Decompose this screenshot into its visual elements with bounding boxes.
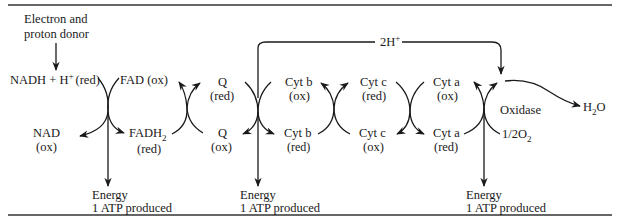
fadh2-to-fad-arrow (172, 82, 187, 134)
cytc-red-state: (red) (362, 89, 386, 103)
nad-state: (ox) (36, 140, 57, 154)
energy-2-line2: 1 ATP produced (240, 201, 321, 215)
cytc-red-to-cytc-ox-arrow (396, 82, 410, 134)
energy-3-line1: Energy (466, 188, 503, 202)
cytb-red-to-cytb-ox-arrow (318, 83, 334, 134)
q-ox-to-q-red-arrow (187, 83, 203, 133)
fadh2-label: FADH2 (129, 126, 167, 143)
q-ox-label: Q (218, 126, 227, 140)
oxygen-arrow (484, 83, 500, 134)
cytc-red-label: Cyt c (360, 75, 387, 89)
cyta-red-state: (red) (434, 140, 458, 154)
cyta-ox-to-cyta-red-arrow (410, 82, 424, 134)
cytb-red-state: (red) (287, 140, 310, 154)
q-ox-state: (ox) (211, 140, 232, 154)
cyta-ox-state: (ox) (437, 89, 458, 103)
proton-line-right (402, 42, 501, 74)
cyta-red-to-cyta-ox-arrow (464, 82, 484, 134)
cytc-ox-to-cytc-red-arrow (334, 83, 350, 134)
cytb-ox-to-cytb-red-arrow (258, 82, 274, 134)
donor-label-line1: Electron and (24, 12, 88, 26)
donor-label-line2: proton donor (24, 27, 90, 41)
energy-1-line1: Energy (92, 188, 129, 202)
cytb-red-label: Cyt b (284, 126, 311, 140)
cytb-ox-state: (ox) (289, 89, 310, 103)
energy-2-line1: Energy (240, 188, 277, 202)
water-label: H2O (583, 100, 606, 117)
cytc-ox-state: (ox) (363, 140, 384, 154)
oxygen-label: 1/2O2 (502, 127, 532, 144)
fad-ox-label: FAD (ox) (120, 73, 168, 87)
protons-label: 2H+ (380, 33, 400, 49)
proton-line-left (258, 42, 375, 98)
nad-label: NAD (33, 126, 60, 140)
cytc-ox-label: Cyt c (359, 126, 386, 140)
q-red-label: Q (218, 75, 227, 89)
q-red-to-q-ox-arrow (243, 82, 258, 134)
q-red-state: (red) (210, 89, 234, 103)
electron-transport-diagram: Electron and proton donor NADH + H+(red)… (0, 0, 619, 223)
oxidase-label: Oxidase (500, 103, 541, 117)
cytb-ox-label: Cyt b (285, 75, 312, 89)
energy-3-line2: 1 ATP produced (466, 201, 547, 215)
cyta-red-label: Cyt a (433, 126, 460, 140)
fadh2-state: (red) (137, 142, 161, 156)
energy-1-line2: 1 ATP produced (92, 201, 173, 215)
nadh-label: NADH + H+(red) (10, 71, 100, 87)
cyta-ox-label: Cyt a (433, 75, 460, 89)
